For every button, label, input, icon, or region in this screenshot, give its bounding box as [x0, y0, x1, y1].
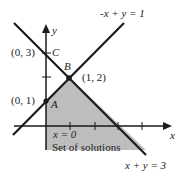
- x-axis-label: x: [170, 130, 175, 141]
- point-a-coords: (0, 1): [11, 95, 35, 106]
- equation-label-1: -x + y = 1: [100, 8, 145, 19]
- point-b-coords: (1, 2): [82, 72, 106, 83]
- point-b-marker: [66, 75, 72, 81]
- point-c-coords: (0, 3): [11, 47, 35, 58]
- region-label: Set of solutions: [52, 142, 120, 153]
- boundary-label: x = 0: [53, 129, 76, 140]
- point-a-marker: [43, 98, 48, 103]
- y-axis-label: y: [52, 25, 57, 36]
- equation-label-2: x + y = 3: [125, 160, 166, 171]
- point-b-label: B: [64, 61, 71, 72]
- point-c-label: C: [52, 47, 59, 58]
- y-axis-arrow-icon: [42, 24, 50, 33]
- point-a-label: A: [51, 99, 58, 110]
